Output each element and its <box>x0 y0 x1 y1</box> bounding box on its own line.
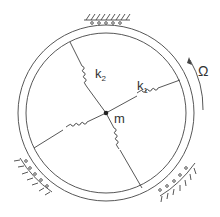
spring-k1-label: k1 <box>137 79 148 92</box>
mass-label: m <box>114 112 125 125</box>
rotating-ring-diagram: k2 k1 m Ω <box>0 0 220 217</box>
arrowhead-icon <box>187 57 192 65</box>
angular-velocity-label: Ω <box>198 64 208 78</box>
top-roller-support <box>84 14 130 24</box>
bottom-left-roller-support <box>14 158 52 195</box>
mass-point <box>104 111 109 116</box>
spring-k2-label: k2 <box>95 67 106 80</box>
bottom-right-roller-support <box>159 163 196 202</box>
diagram-drawing <box>0 0 220 217</box>
